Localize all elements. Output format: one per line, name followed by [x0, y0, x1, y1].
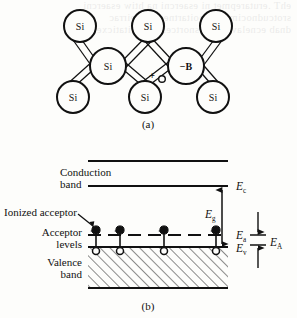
energy-label-Ev: Ev — [235, 242, 247, 257]
atom-label: Si — [144, 21, 153, 32]
hole-icon — [117, 248, 124, 255]
acceptor-site — [92, 226, 100, 255]
atom-boron-dopant: −B — [168, 48, 204, 84]
atom-si-center: Si — [90, 48, 126, 84]
ionized-acceptor-icon — [92, 226, 100, 234]
valence-band-fill — [88, 247, 228, 288]
panel-a-caption: (a) — [142, 118, 155, 131]
hole-icon — [161, 248, 168, 255]
hole-marker: + — [149, 70, 165, 82]
atom-si-bottom-mid: Si — [129, 81, 161, 113]
atom-label: Si — [141, 92, 150, 103]
atom-label: Si — [69, 92, 78, 103]
acceptor-site — [116, 226, 124, 255]
atom-label: Si — [104, 61, 113, 72]
valence-band-label-line2: band — [61, 268, 83, 280]
hole-plus-sign: + — [149, 70, 155, 81]
panel-a-lattice: Si Si Si Si −B Si — [57, 10, 232, 131]
acceptor-site — [212, 226, 220, 255]
ionized-acceptor-icon — [160, 226, 168, 234]
atom-si-bottom-right: Si — [197, 81, 229, 113]
energy-label-Ec: Ec — [235, 180, 246, 195]
valence-band-label-line1: Valence — [47, 256, 82, 268]
atom-label: Si — [212, 21, 221, 32]
atom-label: Si — [76, 21, 85, 32]
panel-b-band-diagram: Conduction band Ionized acceptor Accepto… — [4, 161, 283, 313]
acceptor-site — [160, 226, 168, 255]
conduction-band-label-line1: Conduction — [60, 166, 112, 178]
acceptor-levels-label-line1: Acceptor — [42, 226, 83, 238]
conduction-band-label-line2: band — [60, 178, 82, 190]
acceptor-ionization-energy-bracket — [250, 212, 266, 268]
atom-si-top-left: Si — [64, 10, 96, 42]
hole-icon — [213, 248, 220, 255]
atom-si-bottom-left: Si — [57, 81, 89, 113]
energy-label-Eg: Eg — [204, 208, 216, 223]
atom-label: Si — [209, 92, 218, 103]
ionized-acceptor-icon — [212, 226, 220, 234]
hole-icon — [93, 248, 100, 255]
semiconductor-acceptor-figure: Si Si Si Si −B Si — [0, 0, 297, 318]
ionized-acceptor-icon — [116, 226, 124, 234]
acceptor-levels-label-line2: levels — [56, 238, 82, 250]
hole-circle-icon — [159, 76, 166, 83]
energy-label-EA: EA — [269, 236, 283, 251]
atom-label: −B — [180, 61, 193, 72]
atom-si-top-right: Si — [200, 10, 232, 42]
panel-b-caption: (b) — [142, 300, 155, 313]
ionized-acceptor-pointer-arrow — [78, 214, 93, 226]
ionized-acceptor-label: Ionized acceptor — [4, 206, 77, 218]
atom-si-top-mid: Si — [132, 10, 164, 42]
